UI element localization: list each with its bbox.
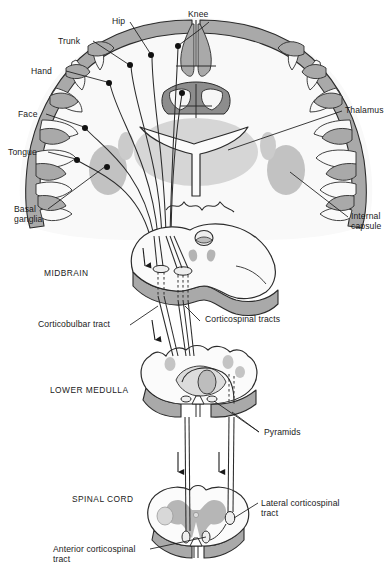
lateral-funiculus-left bbox=[157, 507, 173, 525]
dot-knee-lower bbox=[179, 90, 185, 96]
label-lower-medulla: LOWER MEDULLA bbox=[50, 385, 128, 395]
dot-face bbox=[82, 125, 88, 131]
label-knee: Knee bbox=[188, 9, 208, 19]
dot-tongue bbox=[74, 157, 80, 163]
label-pyramids: Pyramids bbox=[264, 427, 301, 437]
lateral-corticospinal-tract-oval bbox=[225, 512, 235, 525]
label-face: Face bbox=[18, 109, 38, 119]
central-canal bbox=[193, 512, 198, 517]
corticobulbar-bundle-midbrain bbox=[153, 265, 169, 272]
label-thalamus: Thalamus bbox=[345, 105, 384, 115]
label-corticospinal-tracts: Corticospinal tracts bbox=[205, 314, 280, 324]
arrow-above-medulla bbox=[152, 320, 155, 340]
cerebrum-section bbox=[20, 18, 373, 240]
leader-pyramids-right bbox=[232, 412, 259, 432]
label-hand: Hand bbox=[31, 66, 52, 76]
dot-trunk bbox=[127, 62, 133, 68]
cuneate-nucleus-right bbox=[235, 366, 245, 378]
midbrain-section bbox=[131, 224, 278, 316]
label-midbrain: MIDBRAIN bbox=[44, 268, 89, 278]
gracile-nucleus-left bbox=[165, 357, 176, 371]
central-gray-core bbox=[198, 370, 216, 394]
leader-corticospinal bbox=[185, 306, 200, 321]
aqueduct-inner bbox=[196, 237, 212, 243]
label-basal-ganglia: Basal ganglia bbox=[14, 204, 42, 225]
label-spinal-cord: SPINAL CORD bbox=[72, 494, 133, 504]
gracile-nucleus-right bbox=[223, 355, 234, 369]
label-hip: Hip bbox=[112, 16, 125, 26]
label-tongue: Tongue bbox=[8, 147, 37, 157]
label-trunk: Trunk bbox=[58, 36, 80, 46]
anatomy-diagram bbox=[0, 0, 392, 564]
label-internal-capsule: Internal capsule bbox=[351, 211, 381, 232]
lower-medulla-section bbox=[141, 346, 257, 418]
label-anterior-corticospinal-tract: Anterior corticospinal tract bbox=[53, 544, 135, 564]
pyramid-right bbox=[207, 396, 217, 402]
pyramid-left bbox=[181, 396, 191, 402]
putamen-left bbox=[118, 132, 134, 160]
label-lateral-corticospinal-tract: Lateral corticospinal tract bbox=[261, 498, 340, 519]
dot-hip bbox=[148, 52, 154, 58]
leader-corticobulbar bbox=[130, 306, 158, 325]
label-corticobulbar-tract: Corticobulbar tract bbox=[38, 319, 110, 329]
figure-canvas: Knee Hip Trunk Hand Face Tongue Basal ga… bbox=[0, 0, 392, 564]
dot-hand bbox=[106, 80, 112, 86]
